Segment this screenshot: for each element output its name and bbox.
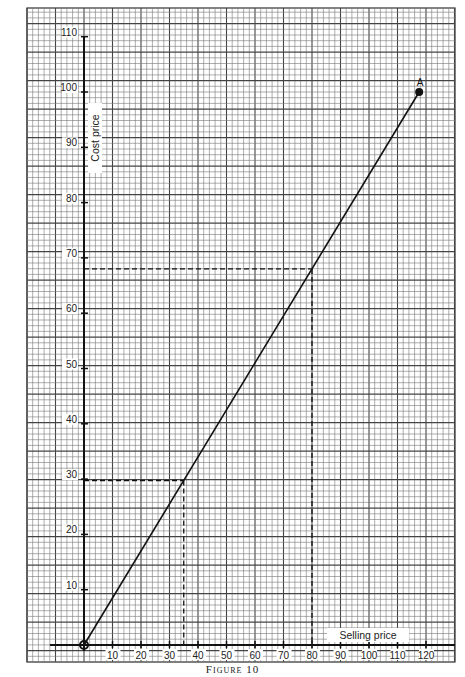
point-a-marker — [415, 88, 423, 96]
y-tick-label: 10 — [66, 580, 78, 591]
y-tick-label: 110 — [61, 27, 77, 38]
y-tick-label: 70 — [66, 248, 78, 259]
x-tick-label: 90 — [335, 650, 347, 661]
y-tick-label: 50 — [66, 359, 78, 370]
x-tick-label: 60 — [249, 650, 261, 661]
cost-selling-price-chart: A 10203040506070809010011012010203040506… — [0, 0, 465, 677]
y-tick-label: 100 — [60, 82, 77, 93]
x-tick-label: 50 — [221, 650, 233, 661]
x-tick-label: 80 — [306, 650, 318, 661]
y-axis-title: Cost price — [89, 114, 101, 161]
x-tick-label: 70 — [278, 650, 290, 661]
x-axis-title: Selling price — [339, 629, 396, 641]
figure-caption: Figure 10 — [0, 663, 465, 675]
y-tick-label: 30 — [66, 469, 78, 480]
x-tick-label: 120 — [418, 650, 435, 661]
y-tick-label: 40 — [66, 414, 78, 425]
y-tick-label: 20 — [66, 524, 78, 535]
x-tick-label: 110 — [390, 650, 406, 661]
x-tick-label: 30 — [164, 650, 176, 661]
point-a-label: A — [417, 77, 424, 88]
y-tick-label: 80 — [66, 193, 78, 204]
x-tick-label: 100 — [361, 650, 378, 661]
y-tick-label: 60 — [66, 303, 78, 314]
y-tick-label: 90 — [66, 137, 78, 148]
x-tick-label: 20 — [135, 650, 147, 661]
x-tick-label: 40 — [192, 650, 204, 661]
x-tick-label: 10 — [107, 650, 119, 661]
